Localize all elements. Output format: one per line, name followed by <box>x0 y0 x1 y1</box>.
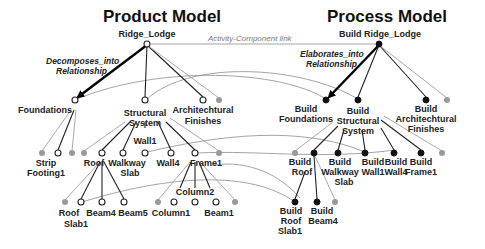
label-frame1: Frame1 <box>190 158 222 168</box>
label-beam4: Beam4 <box>86 208 116 218</box>
node-build-ridge-lodge <box>376 41 382 47</box>
node-foundations <box>72 97 78 103</box>
node-ridge-lodge <box>144 41 150 47</box>
node-wall1 <box>142 150 148 156</box>
label-build-walkway-1: Build <box>329 157 352 167</box>
label-build-structural-2: Structural <box>337 116 380 126</box>
node-strip-footing1 <box>55 150 61 156</box>
label-build-roof-1: Build <box>289 157 312 167</box>
elaborates-label-line2: Relationship <box>306 59 357 69</box>
label-structural-2: System <box>129 118 161 128</box>
node-build-wall4 <box>391 150 397 156</box>
label-build-walkway-2: Walkway <box>321 167 359 177</box>
node-build-roof <box>311 150 317 156</box>
node-frame1 <box>192 150 198 156</box>
elaborates-label-line1: Elaborates_into <box>300 49 364 59</box>
node-column1 <box>171 199 177 205</box>
label-column2: Column2 <box>176 187 215 197</box>
label-build-foundations-1: Build <box>295 104 318 114</box>
label-arch-2: Finishes <box>185 116 222 126</box>
label-build-roofslab-2: Roof <box>281 216 302 226</box>
label-build-arch-1: Build <box>415 104 438 114</box>
product-process-diagram: Product Model Process Model Activity-Com… <box>0 0 485 249</box>
node-beam1 <box>213 199 219 205</box>
label-walkway-2: Slab <box>120 168 140 178</box>
label-build-wall1-1: Build <box>362 157 385 167</box>
node-build-frame1 <box>418 150 424 156</box>
process-model-title: Process Model <box>327 7 447 26</box>
label-roofslab-1: Roof <box>59 208 80 218</box>
label-beam5: Beam5 <box>118 208 148 218</box>
label-strip-2: Footing1 <box>27 168 65 178</box>
label-foundations: Foundations <box>18 105 72 115</box>
node-build-wall1 <box>362 150 368 156</box>
label-structural-1: Structural <box>124 108 167 118</box>
label-arch-1: Architechtural <box>172 105 233 115</box>
label-build-roofslab-1: Build <box>280 206 303 216</box>
label-wall4: Wall4 <box>156 158 179 168</box>
label-walkway-1: Walkway <box>108 158 146 168</box>
label-build-beam4-1: Build <box>311 206 334 216</box>
label-strip-1: Strip <box>36 158 57 168</box>
node-wall4 <box>168 150 174 156</box>
label-wall1: Wall1 <box>133 136 156 146</box>
product-model-title: Product Model <box>103 7 221 26</box>
label-beam1: Beam1 <box>204 208 234 218</box>
label-build-wall1-2: Wall1 <box>361 167 384 177</box>
label-build-frame1-1: Build <box>410 157 433 167</box>
label-build-ridge-lodge: Build Ridge_Lodge <box>339 29 421 39</box>
label-build-frame1-2: Frame1 <box>405 167 437 177</box>
label-column1: Column1 <box>152 208 191 218</box>
label-build-wall4-1: Build <box>385 157 408 167</box>
activity-component-link-label: Activity-Component link <box>207 34 293 43</box>
node-build-architectural-finishes <box>423 97 429 103</box>
node-build-structural-system <box>355 97 361 103</box>
node-build-foundations <box>323 97 329 103</box>
node-build-walkway-slab <box>335 150 341 156</box>
label-build-arch-3: Finishes <box>408 124 445 134</box>
process-labels: Build Ridge_Lodge Build Foundations Buil… <box>278 29 457 236</box>
node-roof <box>99 150 105 156</box>
label-build-beam4-2: Beam4 <box>308 216 338 226</box>
label-build-roof-2: Roof <box>292 167 313 177</box>
label-roof: Roof <box>84 158 105 168</box>
node-walkway-slab <box>120 150 126 156</box>
node-roof-slab1 <box>78 199 84 205</box>
node-beam5 <box>121 199 127 205</box>
node-beam4 <box>99 199 105 205</box>
label-build-foundations-2: Foundations <box>279 114 333 124</box>
label-build-structural-3: System <box>342 126 374 136</box>
node-build-roof-slab1 <box>292 199 298 205</box>
label-ridge-lodge: Ridge_Lodge <box>118 29 175 39</box>
label-build-arch-2: Architechtural <box>395 114 456 124</box>
node-column2 <box>192 199 198 205</box>
decomposes-label-line2: Relationship <box>56 66 107 76</box>
label-build-roofslab-3: Slab1 <box>278 226 302 236</box>
label-roofslab-2: Slab1 <box>64 219 88 229</box>
decomposes-label-line1: Decomposes_into <box>46 56 119 66</box>
node-architectural-finishes <box>200 97 206 103</box>
label-build-walkway-3: Slab <box>334 177 354 187</box>
node-structural-system <box>142 97 148 103</box>
label-build-structural-1: Build <box>347 106 370 116</box>
node-build-beam4 <box>314 199 320 205</box>
